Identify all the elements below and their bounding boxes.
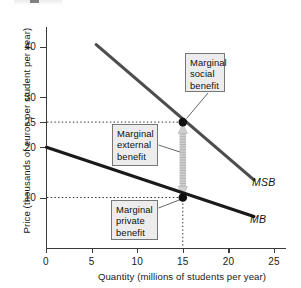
curve-label-msb: MSB	[252, 176, 276, 188]
external-callout-leader	[159, 145, 181, 152]
callout-ext-line-1: Marginal	[117, 128, 153, 139]
marginal-external-benefit-arrow	[178, 124, 187, 197]
callout-marginal-social-benefit: Marginal social benefit	[185, 53, 225, 92]
callout-msb-line-1: Marginal	[190, 57, 220, 68]
marginal-private-benefit-point	[179, 193, 188, 202]
curve-label-mb: MB	[250, 213, 266, 225]
chart-figure: 40 30 25 20 10 0 5 10 15 20 25 Price (th…	[0, 0, 301, 288]
msb-callout-leader	[187, 93, 209, 119]
callout-msb-line-3: benefit	[190, 80, 220, 91]
callout-priv-line-1: Marginal	[116, 204, 153, 215]
callout-ext-line-3: benefit	[117, 151, 153, 162]
callout-priv-line-3: benefit	[116, 227, 153, 238]
callout-marginal-external-benefit: Marginal external benefit	[112, 124, 158, 166]
callout-msb-line-2: social	[190, 68, 220, 79]
callout-priv-line-2: private	[116, 215, 153, 226]
marginal-social-benefit-point	[179, 118, 188, 127]
callout-marginal-private-benefit: Marginal private benefit	[111, 200, 158, 240]
callout-ext-line-2: external	[117, 139, 153, 150]
private-callout-leader	[159, 200, 181, 209]
